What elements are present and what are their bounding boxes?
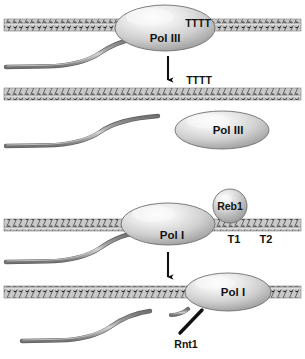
pol1-enzyme-engaged: Pol I: [121, 203, 215, 245]
released-rna-transcript-pol3: [6, 116, 158, 146]
reb1-factor: Reb1: [213, 189, 247, 223]
released-tttt-label: TTTT: [186, 74, 212, 86]
pol1-enzyme-paused: Pol I: [185, 273, 271, 311]
rnt1-label: Rnt1: [174, 338, 197, 350]
nascent-rna-transcript-pol3: [6, 39, 134, 67]
terminator-site-t1-label: T1: [228, 233, 241, 245]
pol3-elongating-panel: Pol III TTTT: [4, 5, 301, 67]
cleaved-rna-transcript-pol1: [22, 311, 150, 341]
terminator-site-t2-label: T2: [260, 233, 273, 245]
pol1-elongating-panel: Pol I Reb1 T1 T2: [4, 189, 301, 262]
pol3-free-label: Pol III: [213, 124, 244, 136]
figure-canvas: Pol III TTTT TTTT Pol III: [0, 0, 305, 359]
rna-stub-in-pol1: [171, 309, 188, 315]
pol1-cleavage-panel: Pol I Rnt1: [4, 273, 301, 350]
tttt-terminator-label: TTTT: [185, 17, 211, 29]
nascent-rna-transcript-pol1: [6, 234, 130, 262]
reb1-label: Reb1: [217, 200, 243, 212]
pol3-engaged-label: Pol III: [150, 32, 181, 44]
dna-duplex-pol3-bottom: [4, 88, 301, 100]
pol1-paused-label: Pol I: [221, 286, 245, 298]
pol3-enzyme-free: Pol III: [175, 111, 269, 149]
pol3-released-panel: Pol III: [4, 88, 301, 149]
pol1-engaged-label: Pol I: [160, 229, 184, 241]
pol3-termination-transition: TTTT: [168, 56, 212, 86]
diagram-svg: Pol III TTTT TTTT Pol III: [0, 0, 305, 359]
